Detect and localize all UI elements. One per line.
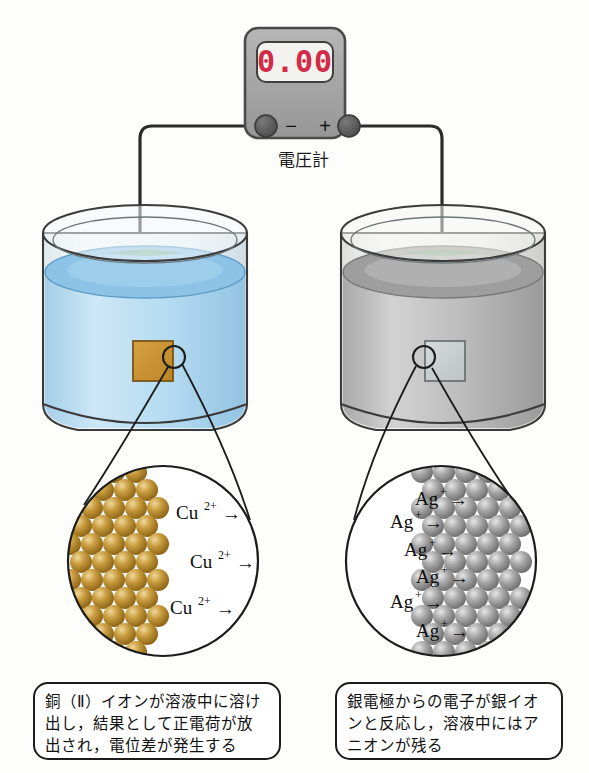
right-caption: 銀電極からの電子が銀イオ ンと反応し，溶液中にはア ニオンが残る [336,683,562,759]
left-caption-line-3: 出され，電位差が発生する [45,737,237,755]
voltmeter-reading: 0.00 [257,44,333,79]
positive-terminal[interactable] [338,115,360,137]
right-ion-charge-3: + [429,536,436,550]
right-ion-charge-4: + [441,563,448,577]
voltmeter-label: 電圧計 [278,150,329,170]
right-ion-charge-6: + [441,617,448,631]
left-ion-charge-2: 2+ [218,548,231,562]
right-caption-line-3: ニオンが残る [347,737,443,755]
negative-terminal[interactable] [255,115,277,137]
negative-terminal-sign: − [285,115,297,137]
right-caption-line-1: 銀電極からの電子が銀イオ [347,693,539,711]
diagram-svg: 0.00 − + 電圧計 [0,0,589,773]
left-ion-symbol-3: Cu [170,597,193,618]
left-ion-arrow-2: → [236,552,255,573]
right-ion-symbol-3: Ag [404,539,428,560]
left-caption-line-2: 出し，結果として正電荷が放 [45,715,253,733]
positive-terminal-sign: + [319,115,331,137]
right-ion-arrow-4: → [450,567,469,588]
voltmeter[interactable]: 0.00 − + 電圧計 [245,28,360,170]
copper-atom-lattice [39,461,169,663]
right-ion-symbol-2: Ag [390,511,414,532]
left-ion-symbol-2: Cu [190,551,213,572]
left-ion-arrow-1: → [222,503,241,524]
right-ion-symbol-6: Ag [416,620,440,641]
copper-electrode[interactable] [133,341,173,381]
right-ion-charge-5: + [415,588,422,602]
left-ion-charge-1: 2+ [204,499,217,513]
right-ion-charge-1: + [440,485,447,499]
right-caption-line-2: ンと反応し，溶液中にはア [347,715,539,733]
right-ion-arrow-3: → [438,540,457,561]
silver-electrode[interactable] [425,341,465,381]
right-ion-arrow-5: → [424,592,443,613]
figure-canvas: 0.00 − + 電圧計 [0,0,589,773]
right-beaker-rim [341,205,545,261]
right-ion-arrow-6: → [450,621,469,642]
right-ion-symbol-5: Ag [390,591,414,612]
left-ion-symbol-1: Cu [176,502,199,523]
right-ion-symbol-4: Ag [416,566,440,587]
left-caption-line-1: 銅（Ⅱ）イオンが溶液中に溶け [45,693,261,711]
right-ion-charge-2: + [415,508,422,522]
right-beaker[interactable] [341,205,545,430]
left-caption: 銅（Ⅱ）イオンが溶液中に溶け 出し，結果として正電荷が放 出され，電位差が発生す… [34,683,280,759]
right-ion-arrow-2: → [424,512,443,533]
right-ion-arrow-1: → [449,489,468,510]
left-beaker-rim [43,205,247,261]
left-beaker[interactable] [43,205,247,430]
left-ion-arrow-3: → [216,598,235,619]
left-magnifier: Cu 2+ → Cu 2+ → Cu 2+ → [39,460,258,665]
right-ion-symbol-1: Ag [415,488,439,509]
left-ion-charge-3: 2+ [198,594,211,608]
